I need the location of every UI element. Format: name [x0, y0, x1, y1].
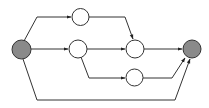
terminal-node-source: [12, 40, 31, 59]
directed-graph-diagram: [0, 0, 209, 108]
node-n2: [69, 40, 87, 58]
edges-group: [23, 17, 190, 100]
edge-source-to-n1: [24, 17, 71, 41]
node-n1: [72, 9, 89, 26]
edge-n2-to-n4: [81, 57, 125, 78]
edge-source-to-sink: [23, 59, 190, 100]
node-n4: [126, 69, 143, 86]
edge-n4-to-sink: [143, 58, 185, 78]
edge-n1-to-n3: [89, 17, 133, 39]
nodes-group: [12, 9, 201, 87]
terminal-node-sink: [183, 40, 201, 58]
node-n3: [126, 40, 144, 58]
